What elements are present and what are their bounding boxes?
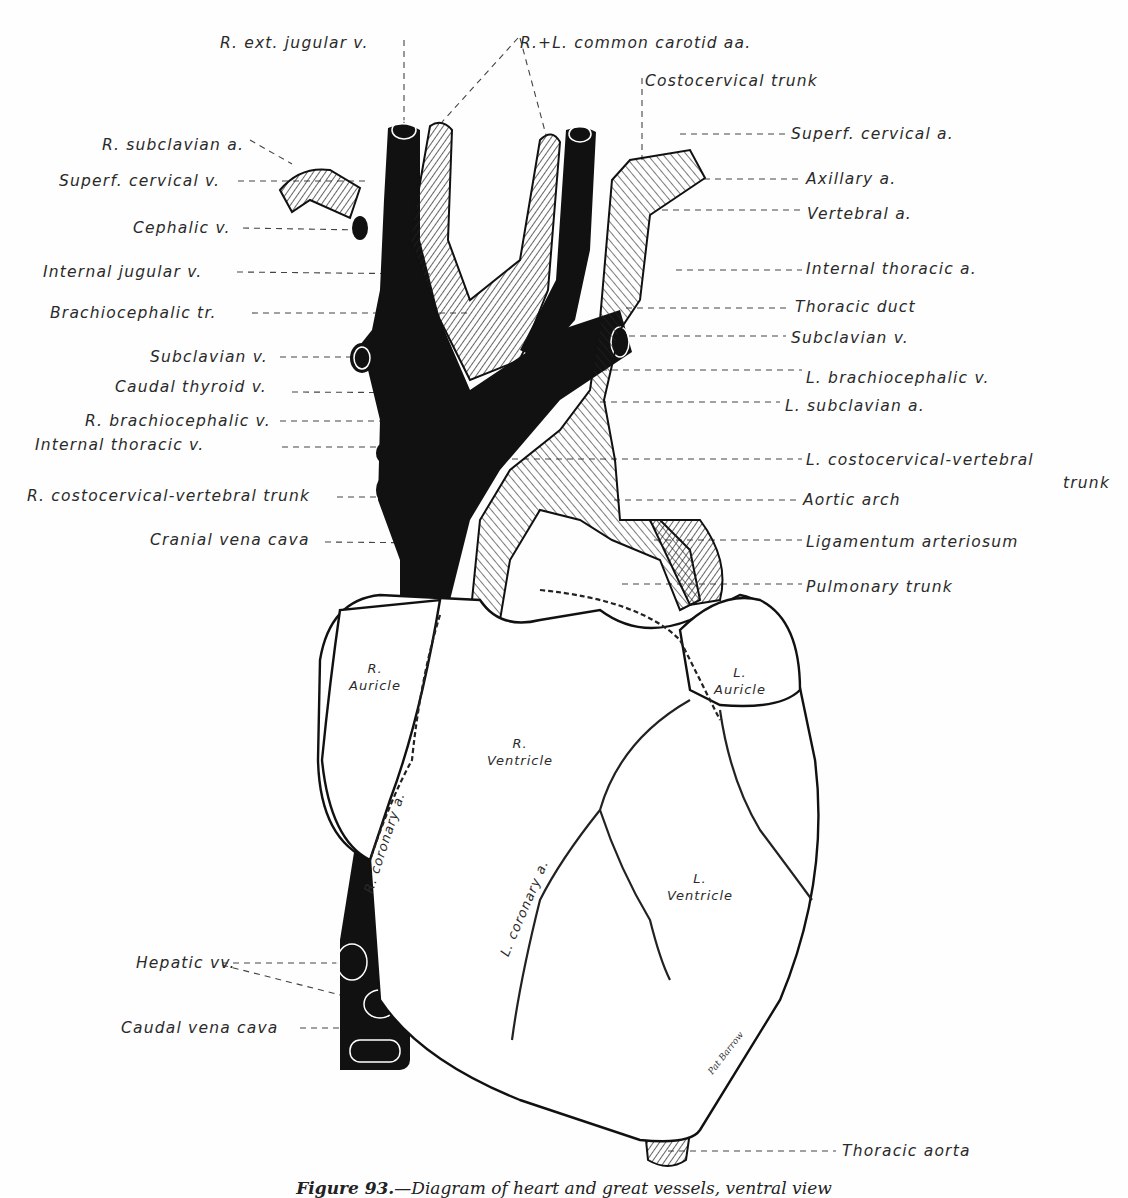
label-superf-cervical-a: Superf. cervical a. bbox=[791, 125, 954, 143]
label-thoracic-aorta: Thoracic aorta bbox=[842, 1142, 971, 1160]
label-internal-thoracic-v: Internal thoracic v. bbox=[35, 436, 204, 454]
label-r-auricle: R. Auricle bbox=[340, 660, 410, 694]
label-caudal-thyroid-v: Caudal thyroid v. bbox=[115, 378, 267, 396]
label-cephalic-v: Cephalic v. bbox=[133, 219, 231, 237]
caption-text: —Diagram of heart and great vessels, ven… bbox=[394, 1178, 831, 1198]
label-subclavian-v-left: Subclavian v. bbox=[791, 329, 909, 347]
caption-label: Figure 93. bbox=[296, 1178, 394, 1198]
label-caudal-vena-cava: Caudal vena cava bbox=[121, 1019, 279, 1037]
label-r-brachiocephalic-v: R. brachiocephalic v. bbox=[85, 412, 271, 430]
label-costocervical-trunk: Costocervical trunk bbox=[645, 72, 818, 90]
label-thoracic-duct: Thoracic duct bbox=[795, 298, 916, 316]
label-subclavian-v-right: Subclavian v. bbox=[150, 348, 268, 366]
label-brachiocephalic-tr: Brachiocephalic tr. bbox=[50, 304, 217, 322]
label-l-subclavian-a: L. subclavian a. bbox=[785, 397, 925, 415]
label-l-costocervical-trunk-word: trunk bbox=[1063, 474, 1110, 492]
label-cranial-vena-cava: Cranial vena cava bbox=[150, 531, 310, 549]
figure-caption: Figure 93.—Diagram of heart and great ve… bbox=[0, 1178, 1128, 1198]
label-r-subclavian-a: R. subclavian a. bbox=[102, 136, 244, 154]
label-l-auricle: L. Auricle bbox=[700, 664, 780, 698]
label-aortic-arch: Aortic arch bbox=[803, 491, 901, 509]
label-common-carotid-aa: R.+L. common carotid aa. bbox=[520, 34, 751, 52]
label-l-ventricle: L. Ventricle bbox=[650, 870, 750, 904]
label-l-costocervical-vertebral: L. costocervical-vertebral bbox=[806, 451, 1034, 469]
label-vertebral-a: Vertebral a. bbox=[807, 205, 912, 223]
label-superf-cervical-v: Superf. cervical v. bbox=[59, 172, 220, 190]
label-l-brachiocephalic-v: L. brachiocephalic v. bbox=[806, 369, 990, 387]
label-pulmonary-trunk: Pulmonary trunk bbox=[806, 578, 953, 596]
label-internal-thoracic-a: Internal thoracic a. bbox=[806, 260, 977, 278]
label-hepatic-vv: Hepatic vv. bbox=[136, 954, 236, 972]
label-r-ventricle: R. Ventricle bbox=[470, 735, 570, 769]
label-axillary-a: Axillary a. bbox=[806, 170, 896, 188]
label-r-costocervical-vertebral-trunk: R. costocervical-vertebral trunk bbox=[27, 487, 310, 505]
label-r-ext-jugular-v: R. ext. jugular v. bbox=[220, 34, 369, 52]
label-internal-jugular-v: Internal jugular v. bbox=[43, 263, 202, 281]
label-ligamentum-arteriosum: Ligamentum arteriosum bbox=[806, 533, 1019, 551]
